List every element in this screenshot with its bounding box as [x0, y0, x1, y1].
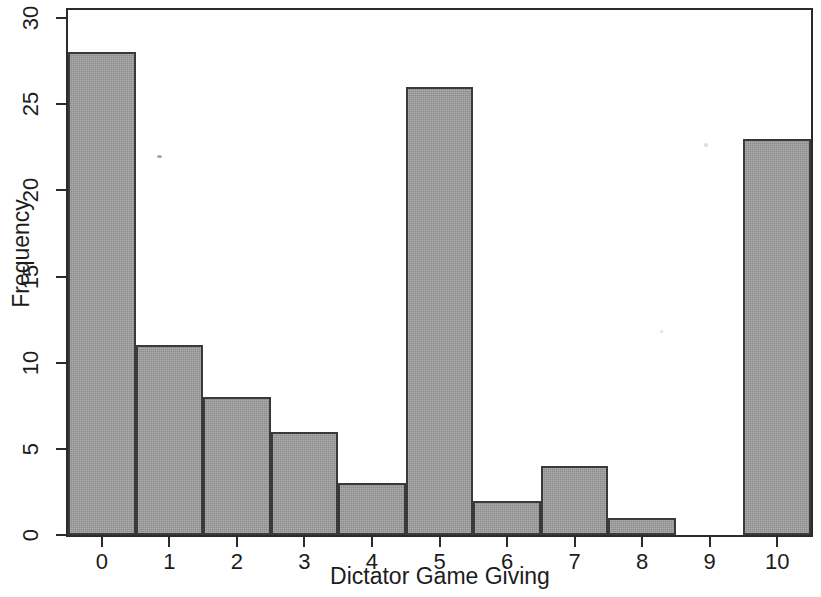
x-tick-1 — [168, 537, 170, 547]
bars-container — [68, 10, 811, 535]
scan-speck — [660, 330, 663, 333]
x-tick-4 — [371, 537, 373, 547]
x-tick-7 — [574, 537, 576, 547]
scan-speck — [704, 143, 708, 147]
x-tick-3 — [303, 537, 305, 547]
y-tick-label-30: 30 — [18, 0, 44, 38]
x-tick-2 — [236, 537, 238, 547]
y-tick-label-25: 25 — [18, 84, 44, 124]
y-tick-label-5: 5 — [18, 429, 44, 469]
bar-8 — [608, 518, 676, 535]
bar-6 — [473, 501, 541, 535]
x-tick-10 — [776, 537, 778, 547]
y-tick-0 — [56, 534, 66, 536]
x-tick-5 — [439, 537, 441, 547]
y-tick-5 — [56, 448, 66, 450]
x-tick-9 — [709, 537, 711, 547]
x-axis-title: Dictator Game Giving — [66, 563, 814, 590]
y-tick-label-15: 15 — [18, 257, 44, 297]
bar-0 — [68, 52, 136, 535]
histogram-figure: Frequency 051015202530 012345678910 Dict… — [0, 0, 821, 597]
bar-4 — [338, 483, 406, 535]
bar-10 — [743, 139, 811, 535]
x-tick-0 — [101, 537, 103, 547]
y-tick-10 — [56, 362, 66, 364]
y-tick-label-10: 10 — [18, 343, 44, 383]
bar-7 — [541, 466, 609, 535]
bar-5 — [406, 87, 474, 535]
y-tick-25 — [56, 103, 66, 105]
scan-speck — [157, 155, 162, 158]
y-tick-30 — [56, 17, 66, 19]
bar-3 — [271, 432, 339, 535]
y-tick-label-0: 0 — [18, 515, 44, 555]
y-tick-label-20: 20 — [18, 170, 44, 210]
x-tick-6 — [506, 537, 508, 547]
bar-2 — [203, 397, 271, 535]
x-tick-8 — [641, 537, 643, 547]
y-tick-20 — [56, 189, 66, 191]
y-tick-15 — [56, 276, 66, 278]
bar-1 — [136, 345, 204, 535]
